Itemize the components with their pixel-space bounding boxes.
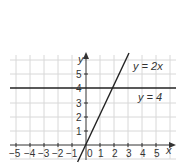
x-axis-label: x [165,144,172,156]
x-tick-label: 4 [140,148,146,159]
x-tick-label: −1 [66,148,78,159]
x-tick-label: 3 [126,148,132,159]
line-y-equals-2x [78,53,129,162]
x-tick-label: −5 [9,148,21,159]
x-tick-label: 2 [112,148,118,159]
x-tick-label: 5 [154,148,160,159]
x-tick-label: −2 [52,148,64,159]
line-label-2x: y = 2x [132,60,163,72]
y-tick-label: 4 [76,83,82,94]
x-tick-label: 1 [98,148,104,159]
x-tick-label: −4 [24,148,36,159]
y-tick-label: 3 [76,98,82,109]
x-tick-label: −3 [38,148,50,159]
y-tick-label: 5 [76,69,82,80]
y-tick-label: 2 [76,112,82,123]
y-tick-label: 1 [76,126,82,137]
line-label-4: y = 4 [137,91,162,103]
x-tick-label: 0 [87,148,93,159]
coordinate-plane: 1 2 3 4 5 −5 −4 −3 −2 −1 0 1 2 3 4 5 x y… [0,0,180,163]
y-axis-arrow-icon [83,52,89,59]
